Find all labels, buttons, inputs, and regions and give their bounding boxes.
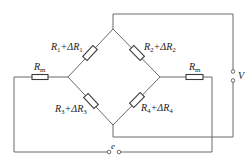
label-rm-left: Rm <box>34 62 46 75</box>
resistor-r1 <box>83 45 98 60</box>
terminal-e-right <box>117 150 121 154</box>
wire-bottom-to-v <box>113 82 233 137</box>
resistor-rm-right <box>186 75 203 80</box>
label-r1: R1+ΔR1 <box>51 42 83 55</box>
resistor-rm-left <box>32 75 48 80</box>
label-r4: R4+ΔR4 <box>141 103 173 116</box>
resistor-r2 <box>130 46 145 61</box>
terminal-v-top <box>231 70 235 74</box>
terminal-v-bottom <box>231 79 235 83</box>
label-output-v: V <box>238 71 244 81</box>
bridge-circuit-diagram <box>0 0 251 165</box>
label-r3: R3+ΔR3 <box>55 104 87 117</box>
label-rm-right: Rm <box>189 62 201 75</box>
label-r2: R2+ΔR2 <box>144 42 176 55</box>
label-source-e: e <box>111 141 115 151</box>
